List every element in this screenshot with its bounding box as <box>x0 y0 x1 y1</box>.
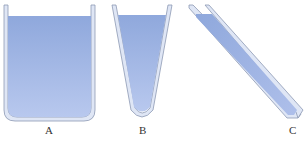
container-a <box>4 5 95 121</box>
container-a-liquid <box>8 16 91 117</box>
label-b: B <box>139 125 146 136</box>
container-b <box>112 5 172 117</box>
label-c: C <box>289 125 296 136</box>
container-c-liquid <box>196 14 297 115</box>
container-c <box>189 5 303 118</box>
containers-diagram <box>0 0 307 141</box>
label-a: A <box>45 125 53 136</box>
